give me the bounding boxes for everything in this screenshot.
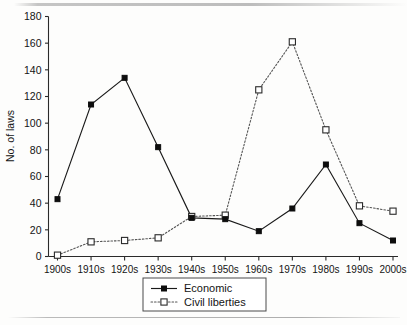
x-tick-label: 1960s <box>245 264 272 275</box>
data-point-civil-liberties <box>356 203 362 209</box>
data-point-economic <box>256 229 261 234</box>
y-tick-label: 180 <box>24 10 42 22</box>
data-point-economic <box>391 238 396 243</box>
x-tick-label: 1980s <box>312 264 339 275</box>
y-tick-label: 20 <box>30 224 42 236</box>
data-point-civil-liberties <box>256 87 262 93</box>
data-point-civil-liberties <box>390 208 396 214</box>
y-tick-label: 60 <box>30 170 42 182</box>
data-point-economic <box>223 217 228 222</box>
x-tick-label: 1950s <box>212 264 239 275</box>
data-point-economic <box>290 206 295 211</box>
x-axis-tick-marks <box>58 257 394 261</box>
chart-figure: 020406080100120140160180 1900s1910s1920s… <box>0 0 407 325</box>
data-point-civil-liberties <box>122 237 128 243</box>
data-point-economic <box>357 221 362 226</box>
data-point-civil-liberties <box>54 252 60 258</box>
chart-legend: EconomicCivil liberties <box>143 278 266 311</box>
x-tick-label: 2000s <box>379 264 406 275</box>
x-axis-tick-labels: 1900s1910s1920s1930s1940s1950s1960s1970s… <box>44 264 407 275</box>
series-line-civil-liberties <box>58 42 394 255</box>
y-axis-title: No. of laws <box>4 110 16 162</box>
data-point-economic <box>323 162 328 167</box>
data-point-civil-liberties <box>289 39 295 45</box>
x-tick-label: 1990s <box>346 264 373 275</box>
y-tick-label: 160 <box>24 37 42 49</box>
data-point-economic <box>122 75 127 80</box>
legend-label: Civil liberties <box>184 296 246 308</box>
legend-swatch-marker-civil-liberties <box>161 299 167 305</box>
y-axis-tick-labels: 020406080100120140160180 <box>24 10 42 262</box>
legend-swatch-marker-economic <box>162 286 167 291</box>
series-markers-economic <box>55 75 396 243</box>
y-tick-label: 100 <box>24 117 42 129</box>
data-point-economic <box>55 197 60 202</box>
data-point-civil-liberties <box>88 239 94 245</box>
y-tick-label: 140 <box>24 64 42 76</box>
data-point-economic <box>189 215 194 220</box>
y-tick-label: 120 <box>24 90 42 102</box>
data-point-economic <box>89 102 94 107</box>
line-chart: 020406080100120140160180 1900s1910s1920s… <box>0 0 407 325</box>
x-tick-label: 1920s <box>111 264 138 275</box>
series-markers-civil-liberties <box>54 39 396 259</box>
legend-label: Economic <box>184 282 233 294</box>
x-tick-label: 1910s <box>77 264 104 275</box>
data-point-civil-liberties <box>323 127 329 133</box>
y-tick-label: 40 <box>30 197 42 209</box>
x-tick-label: 1900s <box>44 264 71 275</box>
x-tick-label: 1940s <box>178 264 205 275</box>
y-tick-label: 80 <box>30 144 42 156</box>
data-point-civil-liberties <box>155 235 161 241</box>
data-point-economic <box>156 145 161 150</box>
x-tick-label: 1970s <box>279 264 306 275</box>
x-tick-label: 1930s <box>145 264 172 275</box>
y-tick-label: 0 <box>36 250 42 262</box>
